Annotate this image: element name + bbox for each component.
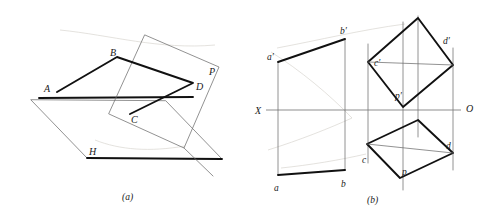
- label-P: P: [208, 66, 215, 77]
- quad-top-edge: [278, 39, 345, 62]
- plane-H-outline: [31, 100, 222, 159]
- label-d: d: [446, 141, 451, 151]
- label-d-prime: d′: [443, 36, 451, 46]
- label-C: C: [131, 114, 138, 125]
- quad-ABCD: [57, 57, 193, 114]
- axis-label-O: O: [466, 103, 473, 114]
- scan-artifacts: [60, 24, 405, 168]
- panel-a-pictorial-view: A B C D P H (a): [31, 35, 222, 203]
- v-projection-parallelogram: c′ d′ p′: [368, 18, 453, 107]
- label-a: a: [274, 183, 279, 193]
- engineering-drawing-figure: A B C D P H (a) X O a′: [0, 0, 500, 214]
- quad-bottom-edge: [278, 170, 345, 175]
- label-B: B: [110, 47, 116, 58]
- label-D: D: [195, 81, 204, 92]
- label-A: A: [43, 83, 51, 94]
- label-H: H: [88, 146, 97, 157]
- axis-label-X: X: [254, 105, 262, 116]
- caption-b: (b): [367, 195, 378, 206]
- plane-P-lower-leg: [184, 148, 213, 176]
- label-b: b: [341, 179, 346, 189]
- label-p-prime: p′: [394, 91, 403, 101]
- label-c-prime: c′: [374, 58, 381, 68]
- figure-page: A B C D P H (a) X O a′: [0, 0, 500, 214]
- caption-a: (a): [122, 192, 133, 203]
- upper-parallelogram-diagonal: [368, 62, 453, 65]
- panel-b-orthographic-view: X O a′ b′ a b c′ d′ p′: [254, 16, 473, 206]
- front-view-quadrilateral: a′ b′ a b: [267, 26, 348, 193]
- label-a-prime: a′: [267, 52, 275, 62]
- lower-parallelogram-diagonal: [367, 144, 453, 153]
- lower-parallelogram-outline: [367, 120, 453, 178]
- h-projection-parallelogram: c d p: [362, 120, 453, 178]
- label-b-prime: b′: [340, 26, 348, 36]
- label-p: p: [401, 167, 407, 177]
- label-c: c: [362, 155, 367, 165]
- plane-H-front-edge: [87, 158, 222, 159]
